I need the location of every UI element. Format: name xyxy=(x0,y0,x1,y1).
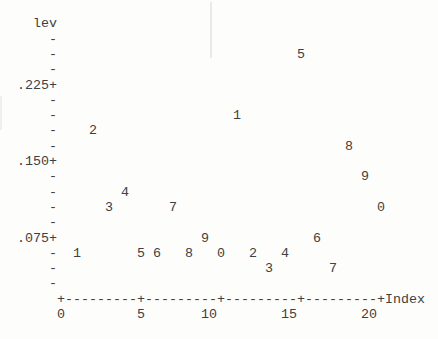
data-point: 3 xyxy=(105,200,113,215)
plot-row: - 2 xyxy=(1,123,433,138)
x-axis-tick-labels-row: 0 5 10 15 20 xyxy=(1,307,433,322)
data-point: 5 xyxy=(137,246,145,261)
y-tick-row: .225+ xyxy=(1,78,433,93)
data-point: 3 xyxy=(265,261,273,276)
data-point: 2 xyxy=(249,246,257,261)
data-point: 0 xyxy=(377,200,385,215)
y-tick-row: .150+ xyxy=(1,154,433,169)
data-point: 5 xyxy=(297,47,305,62)
data-point: 6 xyxy=(313,231,321,246)
plot-row: - 8 xyxy=(1,139,433,154)
data-point: 9 xyxy=(201,231,209,246)
x-axis-row: +---------+---------+---------+---------… xyxy=(1,292,433,307)
plot-row: - xyxy=(1,93,433,108)
plot-row: - 9 xyxy=(1,169,433,184)
y-tick-row: .075+ 9 6 xyxy=(1,231,433,246)
data-point: 6 xyxy=(153,246,161,261)
plot-row: - 3 7 0 xyxy=(1,200,433,215)
scan-artifact xyxy=(210,2,212,58)
plot-row: - xyxy=(1,32,433,47)
data-point: 8 xyxy=(185,246,193,261)
plot-row: - xyxy=(1,276,433,291)
plot-row: - 1 xyxy=(1,108,433,123)
data-point: 7 xyxy=(329,261,337,276)
data-point: 9 xyxy=(361,169,369,184)
data-point: 1 xyxy=(73,246,81,261)
data-point: 0 xyxy=(217,246,225,261)
plot-row: - 5 xyxy=(1,47,433,62)
data-point: 7 xyxy=(169,200,177,215)
plot-row: - 3 7 xyxy=(1,261,433,276)
scan-artifact xyxy=(0,96,2,130)
plot-row: - xyxy=(1,62,433,77)
data-point: 2 xyxy=(89,123,97,138)
data-point: 4 xyxy=(281,246,289,261)
plot-row: - 1 5 6 8 0 2 4 xyxy=(1,246,433,261)
plot-row: - 4 xyxy=(1,185,433,200)
leverage-scatter-plot: lev - - 5 - xyxy=(1,16,438,338)
data-point: 8 xyxy=(345,139,353,154)
y-axis-title-row: lev xyxy=(1,16,433,31)
data-point: 1 xyxy=(233,108,241,123)
data-point: 4 xyxy=(121,185,129,200)
plot-row: - xyxy=(1,215,433,230)
